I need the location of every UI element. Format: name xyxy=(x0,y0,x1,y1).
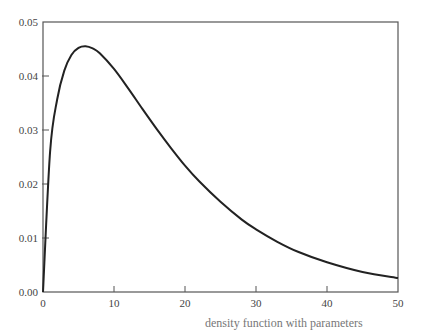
axis-ticks: 010203040500.000.010.020.030.040.05 xyxy=(19,16,404,309)
x-tick-label: 40 xyxy=(322,297,334,309)
y-tick-label: 0.02 xyxy=(19,178,38,190)
x-tick-label: 30 xyxy=(251,297,263,309)
y-tick-label: 0.03 xyxy=(19,124,39,136)
plot-border xyxy=(43,22,398,292)
x-tick-label: 10 xyxy=(109,297,121,309)
plot-frame xyxy=(43,22,398,292)
x-tick-label: 0 xyxy=(40,297,46,309)
x-tick-label: 20 xyxy=(180,297,192,309)
y-tick-label: 0.05 xyxy=(19,16,39,28)
y-tick-label: 0.01 xyxy=(19,232,38,244)
density-curve xyxy=(43,46,398,292)
y-tick-label: 0.00 xyxy=(19,286,39,298)
y-tick-label: 0.04 xyxy=(19,70,39,82)
x-tick-label: 50 xyxy=(393,297,405,309)
figure-caption: density function with parameters xyxy=(205,316,363,331)
